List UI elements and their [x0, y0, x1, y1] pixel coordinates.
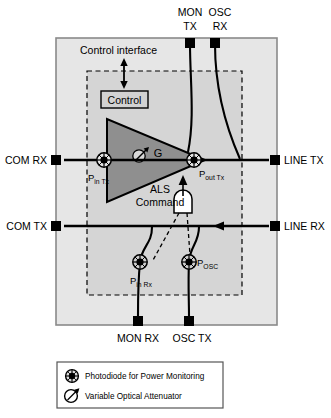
control-block-label: Control — [108, 94, 142, 106]
photodiode-p-in-rx[interactable] — [133, 255, 147, 269]
photodiode-p-osc[interactable] — [182, 255, 196, 269]
terminal-line-rx[interactable] — [270, 221, 280, 231]
block-diagram: Control interface Control G — [0, 0, 331, 418]
photodiode-p-in-tx[interactable] — [97, 153, 111, 167]
diagram-canvas: Control interface Control G — [0, 0, 331, 418]
port-label-osc-rx-line2: RX — [213, 20, 228, 32]
legend-photodiode-icon — [66, 370, 79, 383]
legend-label-photodiode: Photodiode for Power Monitoring — [85, 372, 205, 381]
port-label-osc-rx-line1: OSC — [209, 6, 232, 18]
legend-box — [57, 362, 223, 408]
terminal-com-tx[interactable] — [51, 221, 61, 231]
terminal-line-tx[interactable] — [270, 155, 280, 165]
port-label-com-tx: COM TX — [6, 220, 47, 232]
als-command-label-line2: Command — [136, 196, 185, 208]
terminal-com-rx[interactable] — [51, 155, 61, 165]
terminal-mon-rx[interactable] — [133, 316, 143, 326]
port-label-osc-tx: OSC TX — [173, 332, 212, 344]
als-command-label-line1: ALS — [150, 183, 170, 195]
gain-label: G — [154, 147, 163, 159]
control-interface-label: Control interface — [80, 44, 157, 56]
port-label-mon-tx-line2: TX — [183, 20, 196, 32]
port-label-line-tx: LINE TX — [284, 154, 324, 166]
terminal-osc-tx[interactable] — [184, 316, 194, 326]
port-label-com-rx: COM RX — [5, 154, 47, 166]
photodiode-p-out-tx[interactable] — [187, 153, 201, 167]
terminal-mon-tx[interactable] — [185, 38, 195, 48]
port-label-mon-rx: MON RX — [117, 332, 159, 344]
terminal-osc-rx[interactable] — [210, 38, 220, 48]
legend-label-voa: Variable Optical Attenuator — [85, 392, 182, 401]
port-label-mon-tx-line1: MON — [178, 6, 203, 18]
port-label-line-rx: LINE RX — [284, 220, 325, 232]
